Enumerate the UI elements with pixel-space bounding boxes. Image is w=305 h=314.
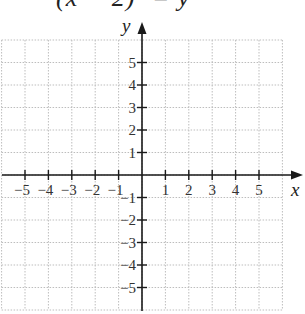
x-tick-label: −3 [61,182,77,198]
y-axis-label: y [120,15,131,36]
x-axis-label: x [290,179,300,200]
x-tick-label: −2 [84,182,100,198]
x-tick-label: −5 [14,182,30,198]
x-tick-label: 2 [185,182,193,198]
y-tick-label: −2 [120,212,136,228]
y-tick-label: −1 [120,190,136,206]
x-tick-label: 5 [255,182,263,198]
y-tick-label: 3 [129,100,137,116]
y-tick-label: 2 [129,122,137,138]
x-tick-label: 4 [232,182,240,198]
y-tick-label: −3 [120,235,136,251]
y-axis-arrow-icon [138,22,147,34]
coordinate-plane: −5−4−3−2−11234554321−1−2−3−4−5 y x [0,0,305,314]
y-tick-label: 4 [129,77,137,93]
y-tick-label: −5 [120,280,136,296]
x-tick-label: −4 [37,182,53,198]
y-tick-label: −4 [120,257,136,273]
x-tick-label: 1 [162,182,170,198]
x-tick-label: 3 [208,182,216,198]
y-tick-label: 1 [129,145,137,161]
axes [2,31,296,311]
y-tick-label: 5 [129,55,137,71]
